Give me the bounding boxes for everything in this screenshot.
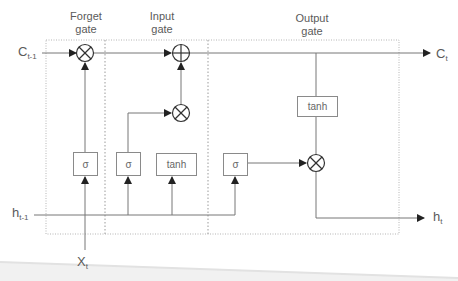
forget-gate-label: Forget gate — [60, 10, 112, 36]
input-multiply-operator — [173, 105, 190, 122]
cell-outer-border — [46, 40, 399, 234]
input-sigma-block: σ — [116, 152, 141, 176]
output-sigma-block: σ — [223, 153, 248, 176]
x-input-label: Xt — [77, 254, 88, 271]
h-t-label: ht — [433, 209, 442, 226]
c-prev-label: Ct-1 — [18, 44, 37, 61]
h-prev-label: ht-1 — [12, 205, 29, 222]
input-gate-label: Input gate — [140, 10, 184, 36]
c-t-label: Ct — [436, 46, 448, 63]
input-tanh-block: tanh — [156, 153, 197, 176]
output-tanh-block: tanh — [297, 96, 338, 117]
forget-sigma-block: σ — [73, 152, 98, 176]
output-multiply-operator — [308, 155, 325, 172]
forget-multiply-operator — [77, 45, 94, 62]
output-gate-label: Output gate — [286, 12, 338, 38]
input-add-operator — [173, 45, 190, 62]
lstm-diagram-canvas — [0, 0, 458, 281]
